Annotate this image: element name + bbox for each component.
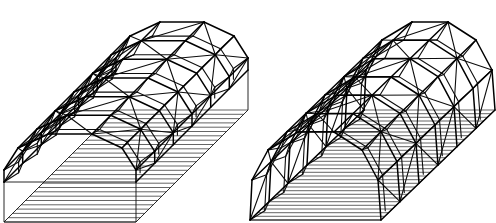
left-frame-polygonal-with-walls (4, 22, 248, 222)
right-frame-arched-barrel-vault (250, 22, 495, 220)
truss-drawing (0, 0, 496, 223)
space-frame-figure (0, 0, 496, 223)
